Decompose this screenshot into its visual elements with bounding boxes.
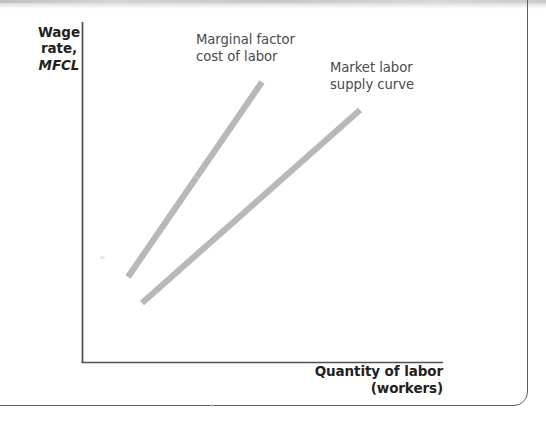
annotation-mfcl-line2: cost of labor <box>196 48 331 65</box>
y-axis-label-symbol: MFCL <box>30 57 88 73</box>
annotation-supply-line2: supply curve <box>330 76 455 93</box>
figure-root: Wage rate, MFCL Quantity of labor (worke… <box>0 0 546 424</box>
y-axis-label-line2: rate, <box>30 40 88 56</box>
y-axis-label: Wage rate, MFCL <box>30 24 88 73</box>
annotation-market-labor-supply-curve: Market labor supply curve <box>330 59 455 93</box>
scan-speck <box>196 176 199 179</box>
x-axis-label-line1: Quantity of labor <box>243 363 443 380</box>
annotation-marginal-factor-cost-of-labor: Marginal factor cost of labor <box>196 31 331 65</box>
scan-speck <box>210 404 214 407</box>
x-axis-label-line2: (workers) <box>243 380 443 397</box>
x-axis-label: Quantity of labor (workers) <box>243 363 443 397</box>
curve-marginal-factor-cost-of-labor <box>128 82 262 277</box>
annotation-supply-line1: Market labor <box>330 59 455 76</box>
y-axis-label-line1: Wage <box>30 24 88 40</box>
scan-speck <box>100 256 105 259</box>
annotation-mfcl-line1: Marginal factor <box>196 31 331 48</box>
